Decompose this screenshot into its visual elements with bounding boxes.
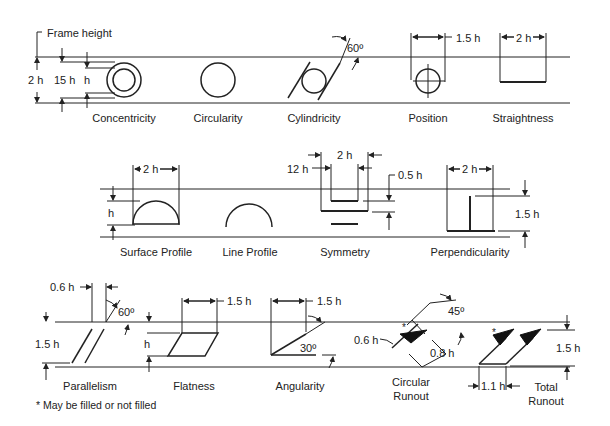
perpendicularity-height: 1.5 h — [515, 208, 539, 220]
dim-h: h — [84, 74, 90, 86]
caption-circularity: Circularity — [194, 112, 243, 124]
caption-cylindricity: Cylindricity — [287, 112, 340, 124]
surface-profile-h: h — [108, 207, 114, 219]
caption-line-profile: Line Profile — [222, 246, 277, 258]
total-runout-spacing: 1.1 h — [481, 380, 505, 392]
position-width: 1.5 h — [456, 32, 480, 44]
caption-symmetry: Symmetry — [320, 246, 370, 258]
symmetry-inner-width: 2 h — [337, 149, 352, 161]
footnote: * May be filled or not filled — [36, 399, 156, 411]
parallelism-spacing: 0.6 h — [50, 281, 74, 293]
straightness-width: 2 h — [514, 32, 533, 44]
caption-total-runout-line1: Total — [534, 381, 557, 393]
cylindricity-angle: 60º — [347, 42, 363, 54]
caption-circular-runout-line2: Runout — [393, 390, 428, 402]
flatness-h: h — [144, 338, 150, 350]
caption-parallelism: Parallelism — [63, 380, 117, 392]
parallelism-angle: 60º — [118, 306, 134, 318]
surface-profile-width: 2 h — [141, 163, 160, 175]
caption-position: Position — [408, 112, 447, 124]
tolerance-symbols-diagram: Frame height 2 h 15 h h 60º 1.5 h 2 h Co… — [0, 0, 610, 426]
circular-runout-angle: 45º — [448, 305, 464, 317]
circular-runout-width: 0.6 h — [354, 334, 378, 346]
symmetry-outer-width: 12 h — [287, 163, 308, 175]
dim-2h: 2 h — [28, 74, 43, 86]
circular-runout-length: 0.8 h — [430, 347, 454, 359]
symmetry-gap: 0.5 h — [398, 169, 422, 181]
total-runout-asterisk: * — [492, 327, 496, 339]
frame-height-label: Frame height — [47, 27, 112, 39]
total-runout-height: 1.5 h — [556, 342, 580, 354]
parallelism-height: 1.5 h — [35, 338, 59, 350]
dim-15h: 15 h — [54, 74, 75, 86]
caption-circular-runout-line1: Circular — [392, 376, 430, 388]
caption-angularity: Angularity — [276, 380, 325, 392]
circular-runout-asterisk: * — [402, 322, 406, 334]
caption-flatness: Flatness — [173, 380, 215, 392]
caption-surface-profile: Surface Profile — [120, 246, 192, 258]
flatness-width: 1.5 h — [227, 295, 251, 307]
caption-straightness: Straightness — [492, 112, 553, 124]
angularity-angle: 30º — [300, 342, 316, 354]
caption-perpendicularity: Perpendicularity — [431, 246, 510, 258]
perpendicularity-width: 2 h — [460, 163, 479, 175]
angularity-width: 1.5 h — [317, 295, 341, 307]
caption-concentricity: Concentricity — [92, 112, 156, 124]
caption-total-runout-line2: Runout — [528, 395, 563, 407]
